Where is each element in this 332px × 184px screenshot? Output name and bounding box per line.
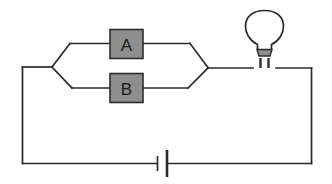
wire-branch-bottom-left-diagonal xyxy=(52,67,72,88)
bulb-base xyxy=(257,50,272,57)
wire-branch-bottom-right-diagonal xyxy=(188,68,208,88)
component-b-label: B xyxy=(121,80,132,99)
component-a-label: A xyxy=(121,36,133,55)
bulb-glass-outline xyxy=(246,11,284,50)
circuit-diagram-canvas: A B xyxy=(0,0,332,184)
light-bulb-icon[interactable] xyxy=(246,11,284,69)
wire-branch-top-left-diagonal xyxy=(52,44,70,68)
battery-icon[interactable] xyxy=(158,150,168,177)
circuit-diagram: A B xyxy=(0,0,332,184)
wire-branch-top-right-diagonal xyxy=(190,44,208,68)
